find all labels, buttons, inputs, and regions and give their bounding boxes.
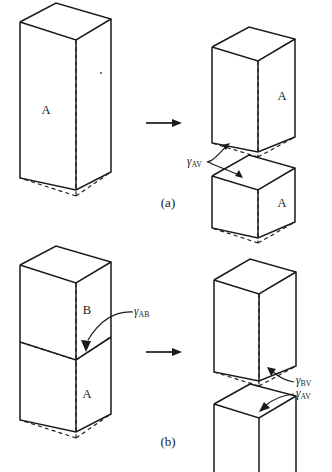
gamma-av-label-panel-a: γAV [187,155,202,169]
panel-a-before-tall-bar: A [20,3,111,196]
gamma-av-panel-b-subscript: AV [301,391,312,400]
phase-label-b-top: B [83,303,91,317]
panel-a-process-arrow [146,119,182,127]
gamma-bv-label: γBV [296,374,312,388]
panel-label-b: (b) [160,434,175,449]
panel-a-after-lower-bar: A [212,155,295,243]
phase-label-a-before: A [41,103,50,117]
panel-b-process-arrow [146,348,182,356]
panel-b-after-upper-bar [214,259,296,386]
gamma-av-label-panel-b: γAV [296,387,311,401]
panel-b-before-tall-bar: B A [20,246,111,438]
gamma-ab-label: γAB [134,305,149,319]
figure-root: A A [0,0,332,472]
diagram-canvas: A A [0,0,332,472]
phase-label-a-after-upper: A [277,89,286,103]
panel-b-after-lower-bar [214,384,296,472]
phase-label-a-bottom: A [82,387,91,401]
panel-a-after-upper-bar: A [212,27,295,157]
panel-label-a: (a) [161,195,175,210]
gamma-bv-subscript: BV [301,378,312,387]
print-speck [100,72,102,74]
phase-label-a-after-lower: A [277,196,286,210]
gamma-av-subscript: AV [192,159,203,168]
gamma-ab-subscript: AB [139,309,150,318]
